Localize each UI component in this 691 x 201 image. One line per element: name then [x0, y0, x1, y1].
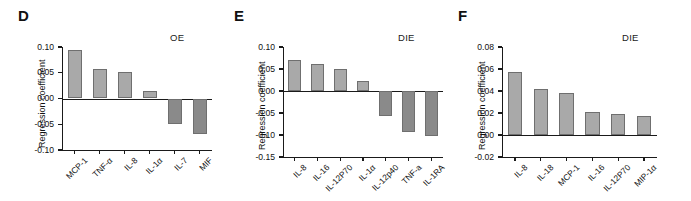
y-tick-label: 0.00: [458, 131, 494, 140]
y-tick-mark: [279, 156, 283, 157]
y-tick-label: -0.05: [239, 109, 275, 118]
plot-area-f: 0.080.060.040.020.00-0.02IL-8IL-18MCP-1I…: [502, 47, 657, 157]
y-tick-label: 0.00: [239, 87, 275, 96]
group-label-f: DIE: [622, 33, 639, 43]
bar: [585, 112, 599, 135]
y-tick-label: 0.05: [239, 65, 275, 74]
y-tick-mark: [58, 46, 62, 47]
y-tick-label: -0.02: [458, 153, 494, 162]
x-tick-mark: [618, 157, 619, 161]
bar: [402, 91, 415, 132]
y-tick-label: 0.04: [458, 87, 494, 96]
x-tick-mark: [340, 157, 341, 161]
y-tick-label: -0.10: [18, 146, 54, 155]
y-tick-mark: [58, 98, 62, 99]
y-tick-mark: [279, 68, 283, 69]
y-tick-mark: [498, 68, 502, 69]
y-axis-line: [283, 47, 284, 157]
x-tick-mark: [566, 157, 567, 161]
x-tick-mark: [294, 157, 295, 161]
x-tick-mark: [385, 157, 386, 161]
x-tick-mark: [540, 157, 541, 161]
y-tick-mark: [58, 124, 62, 125]
x-axis-line: [502, 157, 657, 158]
x-tick-mark: [514, 157, 515, 161]
bar: [143, 91, 157, 99]
bar: [508, 72, 522, 135]
figure-panels-def: DOERegression coefficient0.100.050.00-0.…: [0, 0, 691, 201]
bar: [288, 60, 301, 91]
x-tick-mark: [592, 157, 593, 161]
y-tick-mark: [58, 72, 62, 73]
bar: [611, 114, 625, 135]
bar: [559, 93, 573, 135]
y-tick-mark: [498, 112, 502, 113]
bar: [118, 72, 132, 99]
bar: [168, 99, 182, 124]
bar: [425, 91, 438, 136]
zero-line: [502, 135, 657, 136]
y-tick-label: 0.02: [458, 109, 494, 118]
y-tick-label: -0.05: [18, 120, 54, 129]
bar: [311, 64, 324, 91]
x-tick-mark: [643, 157, 644, 161]
panel-letter-d: D: [18, 8, 29, 23]
y-tick-mark: [498, 134, 502, 135]
bar: [193, 99, 207, 134]
y-tick-mark: [279, 46, 283, 47]
zero-line: [62, 99, 212, 100]
x-tick-mark: [124, 150, 125, 154]
x-tick-mark: [431, 157, 432, 161]
bar: [334, 69, 347, 91]
y-tick-label: 0.00: [18, 94, 54, 103]
x-tick-mark: [317, 157, 318, 161]
y-tick-label: 0.10: [18, 43, 54, 52]
y-tick-label: 0.06: [458, 65, 494, 74]
x-tick-mark: [362, 157, 363, 161]
y-tick-label: 0.10: [239, 43, 275, 52]
plot-area-e: 0.100.050.00-0.05-0.10-0.15IL-8IL-16IL-1…: [283, 47, 443, 157]
y-tick-mark: [58, 149, 62, 150]
y-axis-line: [502, 47, 503, 157]
x-tick-mark: [99, 150, 100, 154]
y-tick-mark: [498, 156, 502, 157]
x-tick-mark: [74, 150, 75, 154]
y-tick-mark: [498, 90, 502, 91]
bar: [93, 69, 107, 99]
x-tick-mark: [199, 150, 200, 154]
y-tick-mark: [279, 134, 283, 135]
bar: [637, 116, 651, 135]
y-tick-mark: [279, 112, 283, 113]
group-label-d: OE: [170, 33, 184, 43]
x-tick-mark: [149, 150, 150, 154]
zero-line: [283, 91, 443, 92]
x-tick-mark: [408, 157, 409, 161]
x-axis-line: [62, 150, 212, 151]
group-label-e: DIE: [398, 33, 415, 43]
panel-letter-e: E: [234, 8, 244, 23]
y-tick-label: 0.05: [18, 68, 54, 77]
bar: [357, 81, 370, 91]
x-tick-mark: [174, 150, 175, 154]
bar: [379, 91, 392, 116]
plot-area-d: 0.100.050.00-0.05-0.10MCP-1TNF-αIL-8IL-1…: [62, 47, 212, 150]
y-tick-mark: [279, 90, 283, 91]
y-tick-mark: [498, 46, 502, 47]
bar: [534, 89, 548, 135]
panel-letter-f: F: [458, 8, 467, 23]
bar: [68, 50, 82, 98]
y-tick-label: 0.08: [458, 43, 494, 52]
y-tick-label: -0.15: [239, 153, 275, 162]
y-tick-label: -0.10: [239, 131, 275, 140]
